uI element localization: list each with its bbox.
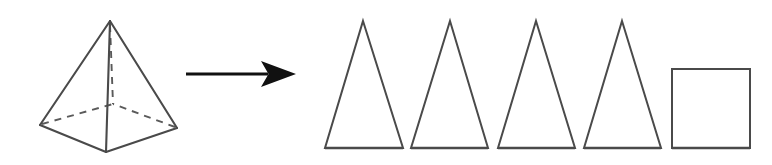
square-base-face xyxy=(672,69,750,148)
square-base-face-outline xyxy=(672,69,750,148)
pyramid-net-figure: Square pyramid decomposed into its faces xyxy=(0,0,772,165)
figure-canvas xyxy=(0,0,772,165)
